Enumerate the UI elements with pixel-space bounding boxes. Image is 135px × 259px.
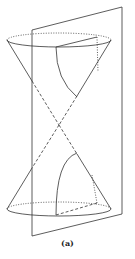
double-cone-hyperbola-diagram	[0, 0, 135, 259]
cutting-plane	[32, 7, 122, 236]
figure-caption: (a)	[0, 238, 135, 248]
lower-hyperbola-branch	[56, 153, 97, 215]
upper-hyperbola-branch	[56, 37, 98, 97]
upper-cone	[7, 33, 111, 125]
lower-cone	[7, 125, 111, 216]
